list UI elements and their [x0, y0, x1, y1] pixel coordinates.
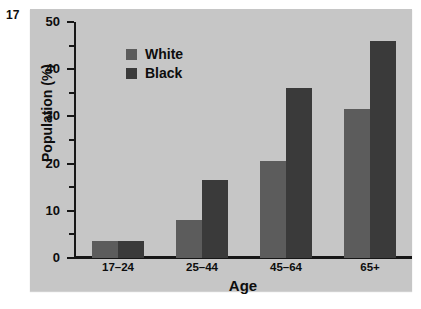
- x-tick-label: 25–44: [162, 261, 242, 273]
- x-tick-label: 17–24: [78, 261, 158, 273]
- y-tick-minor: [69, 186, 74, 188]
- bar-black-65-: [370, 41, 396, 258]
- bar-black-25-44: [202, 180, 228, 258]
- chart-legend: WhiteBlack: [126, 47, 183, 80]
- y-tick-minor: [69, 92, 74, 94]
- x-tick-label: 65+: [330, 261, 410, 273]
- y-tick-label: 10: [20, 204, 60, 217]
- figure-number: 17: [6, 8, 19, 22]
- legend-label: Black: [145, 66, 182, 80]
- chart-panel: 01020304050 Population (%) 17–2425–4445–…: [30, 9, 412, 291]
- legend-label: White: [145, 47, 183, 61]
- y-tick-major: [67, 21, 74, 23]
- y-axis-title: Population (%): [39, 38, 55, 188]
- x-axis-title: Age: [74, 277, 412, 294]
- y-tick-major: [67, 115, 74, 117]
- y-tick-major: [67, 210, 74, 212]
- y-tick-major: [67, 68, 74, 70]
- x-tick-label: 45–64: [246, 261, 326, 273]
- legend-swatch-icon: [126, 68, 137, 79]
- y-tick-label: 0: [20, 251, 60, 264]
- y-tick-label: 50: [20, 15, 60, 28]
- plot-area: 01020304050 Population (%) 17–2425–4445–…: [30, 9, 412, 291]
- bar-white-45-64: [260, 161, 286, 258]
- y-tick-major: [67, 257, 74, 259]
- bar-black-17-24: [118, 241, 144, 258]
- y-tick-major: [67, 163, 74, 165]
- y-tick-minor: [69, 139, 74, 141]
- bar-white-17-24: [92, 241, 118, 258]
- figure-root: 17 01020304050 Population (%) 17–2425–44…: [0, 0, 421, 309]
- bar-white-65-: [344, 109, 370, 258]
- legend-swatch-icon: [126, 49, 137, 60]
- legend-item-black: Black: [126, 66, 183, 80]
- y-tick-minor: [69, 45, 74, 47]
- y-tick-minor: [69, 233, 74, 235]
- bar-white-25-44: [176, 220, 202, 258]
- bar-black-45-64: [286, 88, 312, 258]
- legend-item-white: White: [126, 47, 183, 61]
- y-axis-line: [74, 22, 76, 258]
